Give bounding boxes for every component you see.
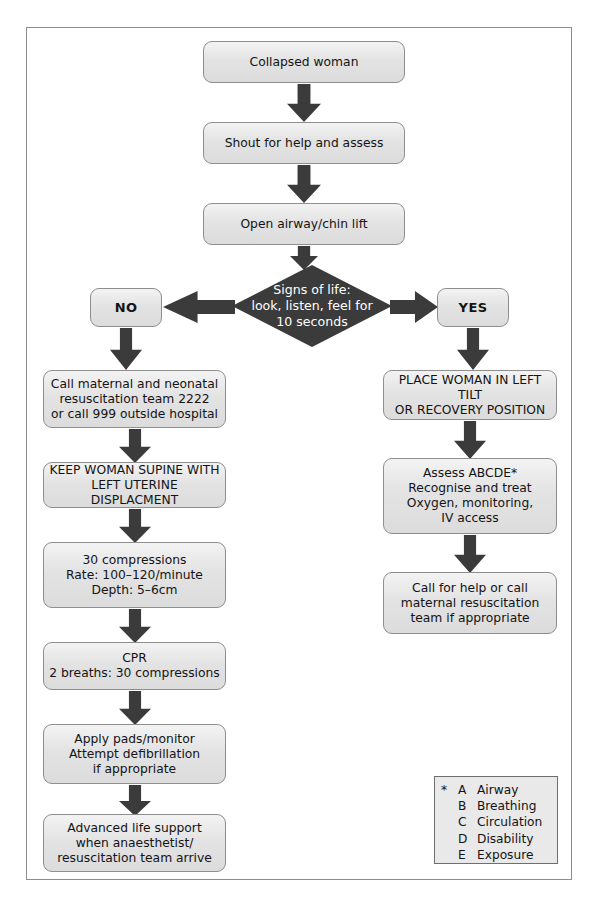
node-place-woman-left-tilt-label: PLACE WOMAN IN LEFT TILT OR RECOVERY POS… [388, 373, 552, 418]
node-shout-for-help-label: Shout for help and assess [208, 136, 400, 151]
legend-abcde: * A Airway B Breathing C Circulation D D… [434, 776, 558, 864]
decision-signs-of-life: Signs of life: look, listen, feel for 10… [232, 265, 392, 347]
node-advanced-life-support: Advanced life support when anaesthetist/… [43, 814, 226, 872]
node-call-for-help: Call for help or call maternal resuscita… [383, 572, 557, 634]
node-keep-woman-supine-label: KEEP WOMAN SUPINE WITH LEFT UTERINE DISP… [48, 463, 221, 508]
legend-letter-b: B [458, 798, 477, 814]
node-assess-abcde-label: Assess ABCDE* Recognise and treat Oxygen… [388, 466, 552, 526]
legend-letter-c: C [458, 814, 477, 830]
node-call-for-help-label: Call for help or call maternal resuscita… [388, 581, 552, 626]
flowchart-canvas: Collapsed woman Shout for help and asses… [0, 0, 599, 906]
legend-row: C Circulation [441, 814, 548, 830]
node-apply-pads-defibrillation-label: Apply pads/monitor Attempt defibrillatio… [48, 732, 221, 777]
node-branch-no-label: NO [95, 300, 157, 316]
node-assess-abcde: Assess ABCDE* Recognise and treat Oxygen… [383, 458, 557, 534]
legend-letter-a: A [458, 782, 477, 798]
node-branch-yes: YES [437, 288, 509, 327]
node-collapsed-woman: Collapsed woman [203, 41, 405, 83]
legend-term-disability: Disability [477, 831, 548, 847]
node-call-resuscitation-team-label: Call maternal and neonatal resuscitation… [48, 377, 221, 422]
legend-asterisk: * [441, 782, 458, 798]
node-branch-no: NO [90, 288, 162, 327]
node-cpr: CPR 2 breaths: 30 compressions [43, 642, 226, 690]
node-compressions-label: 30 compressions Rate: 100–120/minute Dep… [48, 553, 221, 598]
legend-term-breathing: Breathing [477, 798, 548, 814]
legend-term-circulation: Circulation [477, 814, 548, 830]
legend-row: E Exposure [441, 847, 548, 863]
decision-signs-of-life-label: Signs of life: look, listen, feel for 10… [251, 282, 372, 329]
node-open-airway-label: Open airway/chin lift [208, 217, 400, 232]
legend-row: B Breathing [441, 798, 548, 814]
node-apply-pads-defibrillation: Apply pads/monitor Attempt defibrillatio… [43, 724, 226, 784]
node-keep-woman-supine: KEEP WOMAN SUPINE WITH LEFT UTERINE DISP… [43, 462, 226, 508]
node-cpr-label: CPR 2 breaths: 30 compressions [48, 651, 221, 681]
legend-term-airway: Airway [477, 782, 548, 798]
legend-letter-e: E [458, 847, 477, 863]
node-call-resuscitation-team: Call maternal and neonatal resuscitation… [43, 370, 226, 428]
node-collapsed-woman-label: Collapsed woman [208, 55, 400, 70]
node-advanced-life-support-label: Advanced life support when anaesthetist/… [48, 821, 221, 866]
node-branch-yes-label: YES [442, 300, 504, 316]
node-open-airway: Open airway/chin lift [203, 203, 405, 245]
legend-row: * A Airway [441, 782, 548, 798]
legend-term-exposure: Exposure [477, 847, 548, 863]
node-compressions: 30 compressions Rate: 100–120/minute Dep… [43, 542, 226, 608]
legend-letter-d: D [458, 831, 477, 847]
node-shout-for-help: Shout for help and assess [203, 122, 405, 164]
node-place-woman-left-tilt: PLACE WOMAN IN LEFT TILT OR RECOVERY POS… [383, 370, 557, 420]
legend-row: D Disability [441, 831, 548, 847]
